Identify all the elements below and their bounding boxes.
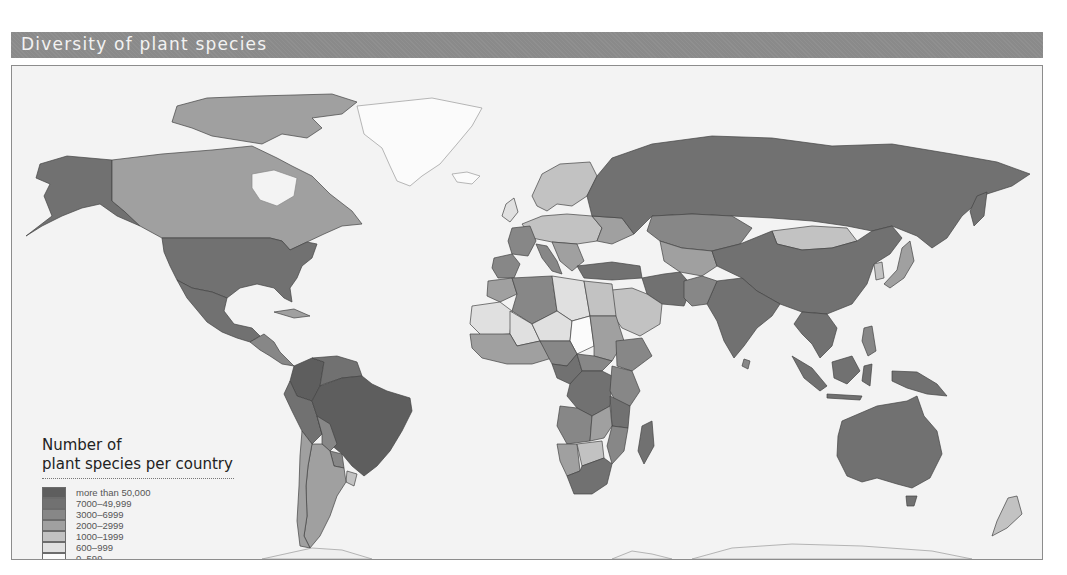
legend-label: 2000–2999	[76, 520, 124, 531]
region-central-america	[250, 334, 294, 366]
legend-item: 3000–6999	[42, 509, 242, 520]
title-bar: Diversity of plant species	[11, 32, 1043, 58]
region-scandinavia	[532, 162, 597, 211]
legend-item: 2000–2999	[42, 520, 242, 531]
legend-label: 7000–49,999	[76, 498, 131, 509]
legend-swatch	[42, 498, 66, 509]
region-mauritania	[470, 302, 512, 336]
region-egypt	[584, 281, 616, 316]
region-morocco	[487, 278, 517, 302]
region-philippines	[862, 326, 876, 356]
region-namibia	[557, 444, 580, 476]
legend-item: 1000–1999	[42, 531, 242, 542]
legend-label: 600–999	[76, 542, 113, 553]
region-new-guinea	[892, 371, 947, 396]
legend-label: 0–599	[76, 553, 102, 560]
region-uk	[502, 198, 518, 222]
legend-title-line2: plant species per country	[42, 455, 242, 474]
legend-swatch	[42, 509, 66, 520]
region-tasmania	[906, 496, 917, 506]
region-ethiopia	[616, 338, 652, 371]
region-spain	[492, 254, 520, 278]
legend-label: 3000–6999	[76, 509, 124, 520]
region-korea	[874, 262, 884, 280]
region-sulawesi	[862, 364, 872, 386]
region-australia	[837, 396, 942, 488]
legend-swatch	[42, 553, 66, 560]
legend-swatch	[42, 520, 66, 531]
legend-item: 0–599	[42, 553, 242, 560]
region-canada	[112, 146, 362, 250]
region-iceland	[452, 172, 480, 184]
legend-title-line1: Number of	[42, 436, 242, 455]
region-mozambique	[607, 426, 628, 464]
legend-label: more than 50,000	[76, 487, 150, 498]
region-antarctica	[262, 544, 972, 559]
world-map: Number of plant species per country more…	[11, 65, 1043, 560]
legend-item: 600–999	[42, 542, 242, 553]
region-sri-lanka	[742, 359, 750, 369]
region-java	[827, 394, 862, 400]
region-madagascar	[638, 421, 654, 464]
legend-swatch	[42, 487, 66, 498]
region-new-zealand	[992, 496, 1022, 536]
legend-swatch	[42, 542, 66, 553]
legend-label: 1000–1999	[76, 531, 124, 542]
region-france	[508, 226, 536, 256]
region-canadian-arctic	[172, 94, 357, 144]
region-uruguay	[346, 471, 357, 486]
region-sumatra	[792, 356, 827, 391]
region-borneo	[832, 356, 860, 384]
region-cuba	[274, 309, 310, 318]
legend-swatch	[42, 531, 66, 542]
region-turkey	[577, 262, 642, 280]
legend-item: 7000–49,999	[42, 498, 242, 509]
legend: Number of plant species per country more…	[42, 436, 242, 560]
region-southeast-asia	[794, 312, 837, 358]
map-title: Diversity of plant species	[21, 34, 267, 54]
legend-separator	[42, 478, 234, 479]
legend-item: more than 50,000	[42, 487, 242, 498]
legend-items: more than 50,000 7000–49,999 3000–6999 2…	[42, 487, 242, 560]
